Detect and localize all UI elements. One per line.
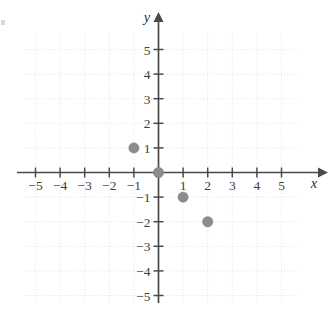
- x-tick-label: 5: [278, 178, 285, 193]
- y-axis-arrowhead: [154, 12, 164, 22]
- x-tick-label: −2: [102, 178, 116, 193]
- y-tick-label: −4: [136, 264, 151, 279]
- y-tick-label: −1: [136, 190, 150, 205]
- y-tick-label: 4: [144, 67, 151, 82]
- x-tick-label: 2: [204, 178, 211, 193]
- x-tick-labels: −5−4−3−2−112345: [28, 178, 285, 193]
- data-point: (-1, 1): [129, 143, 139, 153]
- coordinate-plane-figure: −5−4−3−2−112345 54321−1−2−3−4−5 x y (-1,…: [0, 0, 333, 317]
- grid: [24, 32, 300, 303]
- y-tick-label: 5: [144, 43, 151, 58]
- y-tick-label: 2: [144, 116, 151, 131]
- x-tick-label: 3: [229, 178, 236, 193]
- x-tick-label: 1: [180, 178, 187, 193]
- x-tick-label: −3: [78, 178, 93, 193]
- x-tick-label: 4: [254, 178, 261, 193]
- scatter-plot-svg: −5−4−3−2−112345 54321−1−2−3−4−5 x y (-1,…: [0, 0, 333, 317]
- scan-artifact: [1, 20, 5, 25]
- x-axis-label: x: [310, 175, 318, 191]
- y-axis-label: y: [142, 9, 151, 25]
- x-axis-arrowhead: [318, 168, 328, 178]
- y-tick-label: −2: [136, 215, 150, 230]
- x-tick-label: −4: [53, 178, 68, 193]
- data-point: (0, 0): [153, 167, 163, 177]
- data-point: (1, -1): [178, 192, 188, 202]
- y-tick-label: 1: [144, 141, 151, 156]
- y-tick-label: 3: [144, 92, 151, 107]
- axes: [17, 12, 328, 303]
- data-point: (2, -2): [203, 217, 213, 227]
- y-tick-label: −3: [136, 239, 151, 254]
- x-tick-label: −5: [28, 178, 43, 193]
- y-tick-label: −5: [136, 289, 151, 304]
